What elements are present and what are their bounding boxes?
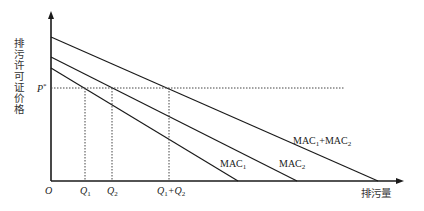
y-axis-label: 排污许可证价格 (10, 38, 24, 115)
mac-sum-label: MAC1+MAC2 (293, 136, 351, 148)
curve-mac-sum (51, 37, 378, 181)
curve-mac1 (51, 68, 238, 181)
x-axis-arrow-icon (396, 178, 404, 184)
origin-label: O (45, 186, 52, 196)
x-axis-label: 排污量 (361, 185, 391, 200)
mac2-label: MAC2 (279, 159, 305, 171)
y-axis-arrow-icon (48, 11, 54, 19)
p-star-label: P* (37, 83, 47, 94)
diagram-canvas (0, 0, 424, 211)
mac1-label: MAC1 (220, 159, 246, 171)
curve-mac2 (51, 57, 297, 181)
q1-label: Q1 (80, 186, 91, 198)
q-sum-label: Q1+Q2 (157, 186, 185, 198)
q2-label: Q2 (107, 186, 118, 198)
